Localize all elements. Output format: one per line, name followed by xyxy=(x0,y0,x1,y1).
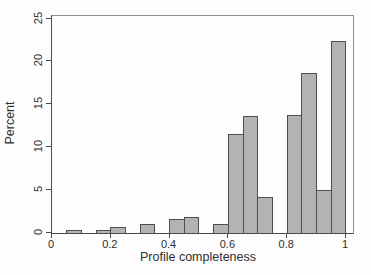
y-axis-tick-label: 5 xyxy=(32,186,44,192)
x-axis-tick-label: 0.6 xyxy=(220,238,235,250)
histogram-bar xyxy=(331,41,347,233)
y-axis-title: Percent xyxy=(3,101,17,144)
y-axis-tick xyxy=(46,60,51,61)
x-axis-tick-label: 0 xyxy=(48,238,54,250)
x-axis-tick-label: 0.4 xyxy=(161,238,176,250)
y-axis-tick-label: 25 xyxy=(32,11,44,23)
y-axis-tick-label: 20 xyxy=(32,54,44,66)
x-axis-tick-label: 1 xyxy=(342,238,348,250)
x-axis-tick-label: 0.2 xyxy=(102,238,117,250)
y-axis-tick-label: 10 xyxy=(32,140,44,152)
y-axis-tick-label: 15 xyxy=(32,97,44,109)
histogram-bar xyxy=(110,227,126,233)
histogram-bar xyxy=(169,219,185,233)
histogram-bar xyxy=(184,217,200,233)
histogram-bar xyxy=(66,230,82,233)
histogram-bar xyxy=(140,224,156,233)
y-axis-tick xyxy=(46,146,51,147)
y-axis-tick-label: 0 xyxy=(32,229,44,235)
y-axis-tick xyxy=(46,18,51,19)
x-axis-title: Profile completeness xyxy=(140,250,256,264)
x-axis-tick-label: 0.8 xyxy=(279,238,294,250)
histogram-bar xyxy=(316,190,332,233)
histogram-bar xyxy=(213,224,229,233)
histogram-bar xyxy=(228,134,244,233)
y-axis-tick xyxy=(46,103,51,104)
histogram-bar xyxy=(301,73,317,233)
histogram-bar xyxy=(243,116,259,233)
histogram-bar xyxy=(287,115,303,233)
histogram-figure: Percent Profile completeness 05101520250… xyxy=(0,0,371,275)
y-axis-tick xyxy=(46,189,51,190)
plot-area xyxy=(51,15,354,234)
histogram-bar xyxy=(257,197,273,233)
